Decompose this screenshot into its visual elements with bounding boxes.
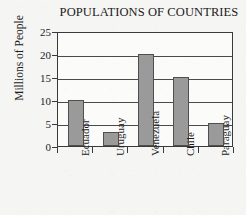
x-tick-0 bbox=[57, 147, 58, 153]
y-tick-label-10: 10 bbox=[25, 96, 51, 107]
x-tick-2 bbox=[127, 147, 128, 153]
x-tick-5 bbox=[233, 147, 234, 153]
y-tick-label-0: 0 bbox=[25, 142, 51, 153]
x-label-paraguay: Paraguay bbox=[220, 115, 231, 156]
y-tick-mark-10 bbox=[52, 101, 58, 102]
x-label-uruguay: Uruguay bbox=[115, 118, 126, 157]
y-tick-mark-5 bbox=[52, 124, 58, 125]
y-tick-label-5: 5 bbox=[25, 119, 51, 130]
x-label-ecuador: Ecuador bbox=[80, 119, 91, 156]
x-tick-3 bbox=[163, 147, 164, 153]
y-tick-mark-20 bbox=[52, 55, 58, 56]
x-label-chile: Chile bbox=[185, 132, 196, 156]
bar-chart-figure: POPULATIONS OF COUNTRIES Millions of Peo… bbox=[0, 0, 246, 215]
y-tick-label-15: 15 bbox=[25, 73, 51, 84]
x-label-venezuela: Venezuela bbox=[150, 111, 161, 156]
x-tick-1 bbox=[92, 147, 93, 153]
y-axis-title: Millions of People bbox=[13, 2, 25, 114]
y-tick-label-20: 20 bbox=[25, 50, 51, 61]
y-tick-mark-25 bbox=[52, 32, 58, 33]
y-tick-label-25: 25 bbox=[25, 27, 51, 38]
chart-title: POPULATIONS OF COUNTRIES bbox=[56, 5, 242, 20]
x-tick-4 bbox=[198, 147, 199, 153]
y-tick-mark-15 bbox=[52, 78, 58, 79]
